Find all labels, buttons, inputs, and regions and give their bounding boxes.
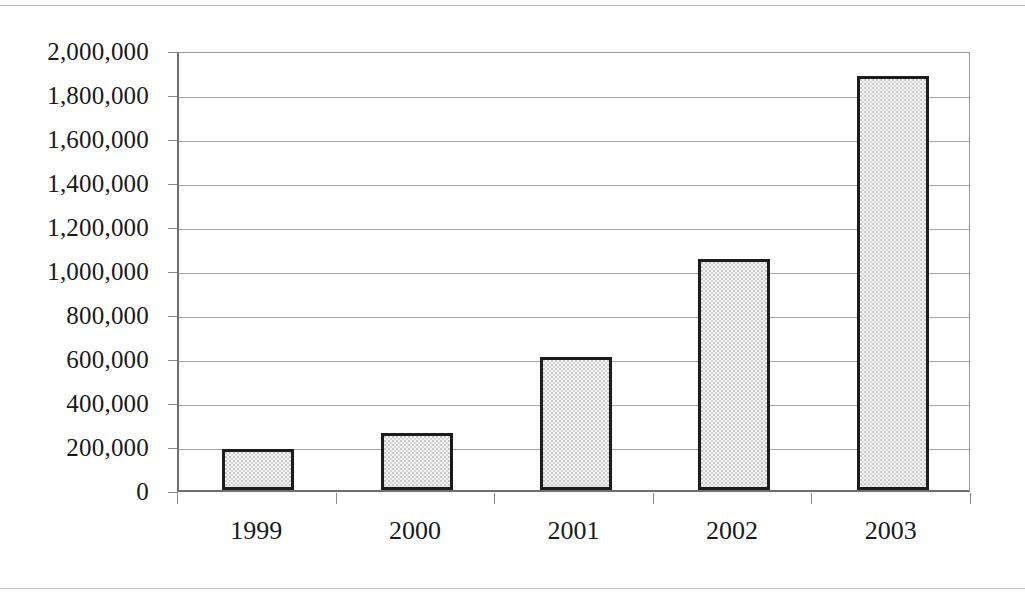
- gridline: [179, 141, 969, 142]
- y-axis-tick-label: 1,400,000: [47, 171, 149, 196]
- plot-area: [177, 52, 970, 492]
- bar: [222, 449, 294, 490]
- y-axis-tick-label: 2,000,000: [47, 39, 149, 64]
- y-axis-tick-label: 1,600,000: [47, 127, 149, 152]
- x-axis-tick-label: 2001: [514, 516, 634, 546]
- y-axis-tick-label: 600,000: [66, 347, 149, 372]
- y-axis-tick-label: 1,800,000: [47, 83, 149, 108]
- x-axis-tick-label: 2003: [831, 516, 951, 546]
- bar: [381, 433, 453, 490]
- x-axis-tick-label: 1999: [196, 516, 316, 546]
- gridline: [179, 317, 969, 318]
- bar: [857, 76, 929, 490]
- x-axis-divider: [970, 493, 971, 504]
- bar: [698, 259, 770, 490]
- x-axis-divider: [494, 493, 495, 504]
- y-axis-tick-label: 1,000,000: [47, 259, 149, 284]
- gridline: [179, 97, 969, 98]
- y-axis-tick-label: 1,200,000: [47, 215, 149, 240]
- y-axis-labels: 2,000,0001,800,0001,600,0001,400,0001,20…: [0, 0, 163, 596]
- x-axis-divider: [811, 493, 812, 504]
- x-axis-divider: [653, 493, 654, 504]
- x-axis-divider: [177, 493, 178, 504]
- y-axis-tick-label: 800,000: [66, 303, 149, 328]
- y-axis-tick-label: 0: [136, 479, 149, 504]
- x-axis-tick-label: 2002: [672, 516, 792, 546]
- gridline: [179, 273, 969, 274]
- y-axis-tick-label: 200,000: [66, 435, 149, 460]
- bar: [540, 357, 612, 490]
- bar-chart-figure: 2,000,0001,800,0001,600,0001,400,0001,20…: [0, 0, 1025, 596]
- y-axis-tick-label: 400,000: [66, 391, 149, 416]
- gridline: [179, 229, 969, 230]
- x-axis-tick-label: 2000: [355, 516, 475, 546]
- x-axis-divider: [336, 493, 337, 504]
- gridline: [179, 185, 969, 186]
